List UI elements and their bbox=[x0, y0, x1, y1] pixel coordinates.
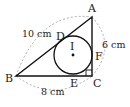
dimension-label-ac: 6 cm bbox=[102, 39, 125, 50]
label-c: C bbox=[93, 77, 101, 90]
geometry-diagram: A B C D E F I 10 cm 6 cm 8 cm bbox=[0, 0, 130, 107]
diagram-canvas: A B C D E F I 10 cm 6 cm 8 cm bbox=[0, 0, 130, 107]
label-i: I bbox=[70, 40, 74, 53]
incenter-point bbox=[72, 54, 75, 57]
dimension-label-bc: 8 cm bbox=[41, 86, 64, 97]
label-f: F bbox=[95, 50, 103, 63]
label-e: E bbox=[70, 77, 78, 90]
label-b: B bbox=[5, 72, 13, 85]
label-a: A bbox=[87, 2, 97, 15]
label-d: D bbox=[56, 30, 65, 43]
dimension-label-ab: 10 cm bbox=[22, 28, 51, 39]
triangle-abc bbox=[16, 17, 92, 76]
right-angle-mark bbox=[86, 70, 92, 76]
